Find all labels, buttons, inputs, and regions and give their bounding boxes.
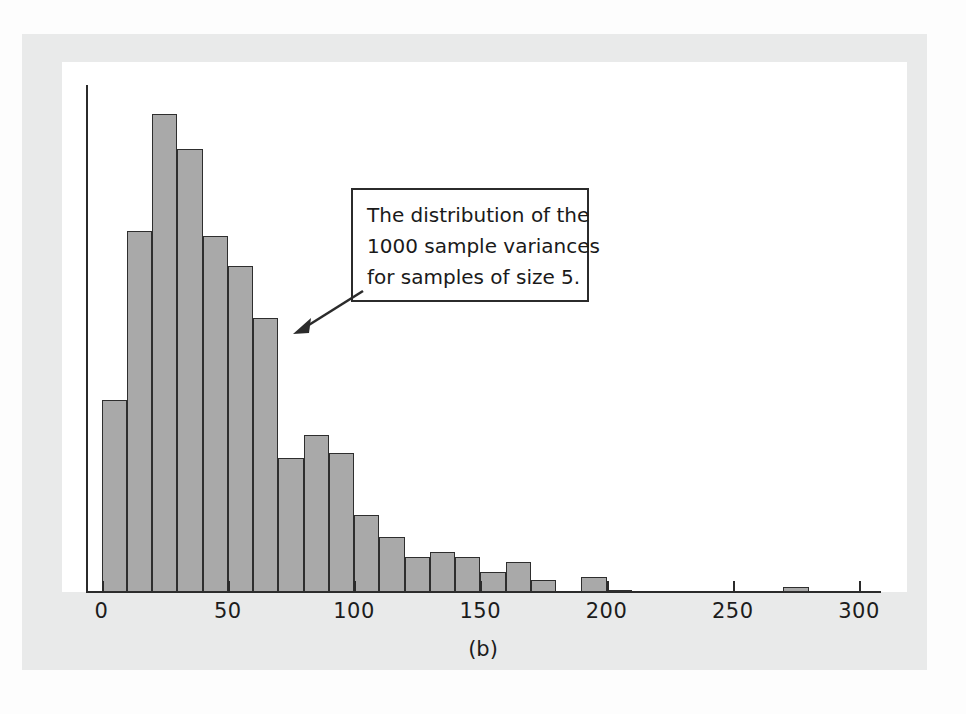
x-axis-tick bbox=[607, 581, 609, 593]
x-axis-tick-label: 50 bbox=[214, 599, 242, 623]
histogram-bar bbox=[783, 587, 808, 592]
figure-caption: (b) bbox=[0, 637, 966, 661]
x-axis-tick bbox=[102, 581, 104, 593]
x-axis-tick-label: 300 bbox=[838, 599, 880, 623]
histogram-bar bbox=[531, 580, 556, 592]
histogram-bar bbox=[304, 435, 329, 592]
histogram-bar bbox=[253, 318, 278, 592]
histogram-bar bbox=[354, 515, 379, 592]
x-axis-tick bbox=[354, 581, 356, 593]
histogram-bar bbox=[102, 400, 127, 592]
histogram-bar bbox=[127, 231, 152, 592]
histogram-bar bbox=[455, 557, 480, 592]
callout-line-1: The distribution of the bbox=[367, 200, 575, 231]
figure-page: 050100150200250300 The distribution of t… bbox=[0, 0, 966, 714]
x-axis-tick bbox=[733, 581, 735, 593]
annotation-callout-box: The distribution of the 1000 sample vari… bbox=[351, 188, 589, 302]
histogram-bar bbox=[177, 149, 202, 592]
x-axis-tick bbox=[480, 581, 482, 593]
histogram-bar bbox=[430, 552, 455, 592]
histogram-bar bbox=[203, 236, 228, 592]
x-axis-tick bbox=[228, 581, 230, 593]
x-axis-tick-label: 200 bbox=[586, 599, 628, 623]
callout-arrow-icon bbox=[275, 285, 370, 340]
x-axis-tick-label: 0 bbox=[95, 599, 109, 623]
histogram-bar bbox=[278, 458, 303, 592]
histogram-bar bbox=[480, 572, 505, 592]
x-axis-tick bbox=[859, 581, 861, 593]
x-axis-tick-label: 150 bbox=[459, 599, 501, 623]
histogram-bar bbox=[329, 453, 354, 592]
histogram-bar bbox=[581, 577, 606, 592]
histogram-bar bbox=[228, 266, 253, 592]
histogram-bar bbox=[405, 557, 430, 592]
histogram-bar bbox=[506, 562, 531, 592]
x-axis-tick-label: 250 bbox=[712, 599, 754, 623]
histogram-bar bbox=[379, 537, 404, 592]
callout-line-2: 1000 sample variances bbox=[367, 231, 575, 262]
y-axis-line bbox=[86, 85, 88, 593]
x-axis-tick-label: 100 bbox=[333, 599, 375, 623]
histogram-bar bbox=[152, 114, 177, 592]
callout-line-3: for samples of size 5. bbox=[367, 262, 575, 293]
histogram-bar bbox=[607, 590, 632, 592]
